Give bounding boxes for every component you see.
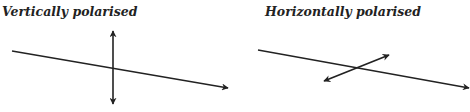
horizontal-oscillation-arrow [324,55,389,81]
polarisation-diagram: Vertically polarised Horizontally polari… [0,0,470,112]
propagation-direction-arrow [12,51,228,88]
diagram-canvas [0,0,470,112]
propagation-direction-arrow [258,50,469,88]
vertical-panel [12,31,228,104]
horizontal-panel [258,50,469,88]
